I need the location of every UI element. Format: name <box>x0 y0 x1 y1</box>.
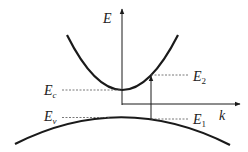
ev-label: Ev <box>43 109 57 126</box>
ec-label: Ec <box>43 83 57 100</box>
k-axis-label: k <box>219 108 226 123</box>
energy-axis-label: E <box>102 11 112 26</box>
band-diagram: E k Ec Ev E2 E1 <box>0 0 248 152</box>
e2-label: E2 <box>192 69 206 86</box>
e1-label: E1 <box>192 112 206 129</box>
